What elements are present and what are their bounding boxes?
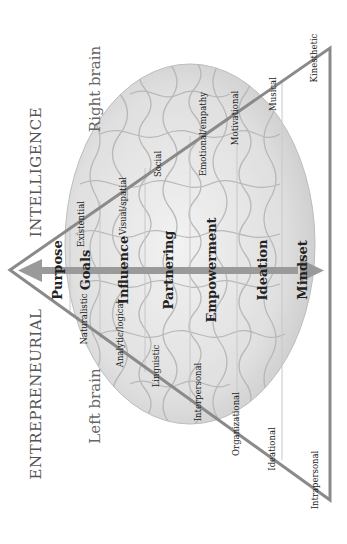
intel-motivational: Motivational	[230, 91, 240, 145]
intel-linguistic: Linguistic	[151, 345, 161, 388]
title-left: ENTREPRENEURIAL	[27, 309, 45, 480]
level-mindset: Mindset	[295, 240, 310, 299]
intel-ideational: Ideational	[267, 427, 277, 470]
intel-social: Social	[153, 151, 163, 177]
level-ideation: Ideation	[255, 240, 270, 301]
title-right: INTELLIGENCE	[27, 107, 45, 237]
intel-interpersonal: Interpersonal	[193, 363, 203, 422]
intel-organizational: Organizational	[231, 392, 241, 456]
level-empowerment: Empowerment	[204, 217, 219, 322]
intel-existential: Existential	[76, 201, 86, 247]
level-influence: Influence	[116, 236, 131, 304]
intel-kinesthetic: Kinesthetic	[309, 34, 319, 83]
diagram-stage: ENTREPRENEURIAL INTELLIGENCE Left brain …	[0, 0, 347, 544]
intel-emotional-empathy: Emotional/empathy	[198, 92, 208, 176]
intel-naturalistic: Naturalistic	[79, 293, 89, 344]
right-brain-label: Right brain	[86, 46, 104, 132]
level-goals: Goals	[78, 250, 93, 290]
intel-visual-spatial: Visual/spatial	[118, 177, 128, 235]
left-brain-label: Left brain	[86, 368, 104, 443]
level-partnering: Partnering	[161, 231, 176, 310]
intel-analytic-logical: Analytic/logical	[115, 301, 125, 368]
intel-musical: Musical	[268, 77, 278, 111]
level-purpose: Purpose	[50, 240, 65, 299]
intel-intrapersonal: Intrapersonal	[310, 451, 320, 510]
